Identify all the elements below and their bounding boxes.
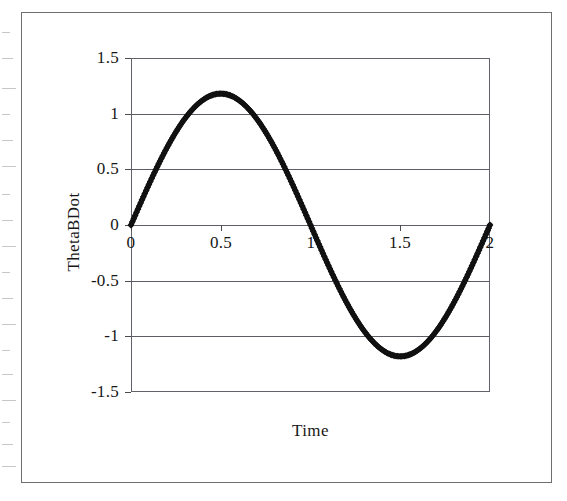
y-tick-label: 0 <box>110 216 119 233</box>
chart-canvas: 1.510.50-0.5-1-1.5 00.511.52 ThetaBDot T… <box>0 0 567 501</box>
y-tick-mark <box>125 392 131 393</box>
y-tick-label: -1.5 <box>91 383 119 400</box>
y-tick-label: 1 <box>110 105 119 122</box>
sine-curve <box>131 58 490 392</box>
scanned-page: 1.510.50-0.5-1-1.5 00.511.52 ThetaBDot T… <box>0 0 567 501</box>
y-axis-title-text: ThetaBDot <box>63 152 85 312</box>
data-series-layer <box>131 58 490 392</box>
y-tick-label: 1.5 <box>97 49 119 66</box>
y-tick-label: -0.5 <box>91 272 119 289</box>
y-tick-label: -1 <box>104 327 119 344</box>
y-tick-label: 0.5 <box>97 160 119 177</box>
y-axis-title: ThetaBDot <box>63 152 85 312</box>
x-axis-title: Time <box>131 421 490 441</box>
